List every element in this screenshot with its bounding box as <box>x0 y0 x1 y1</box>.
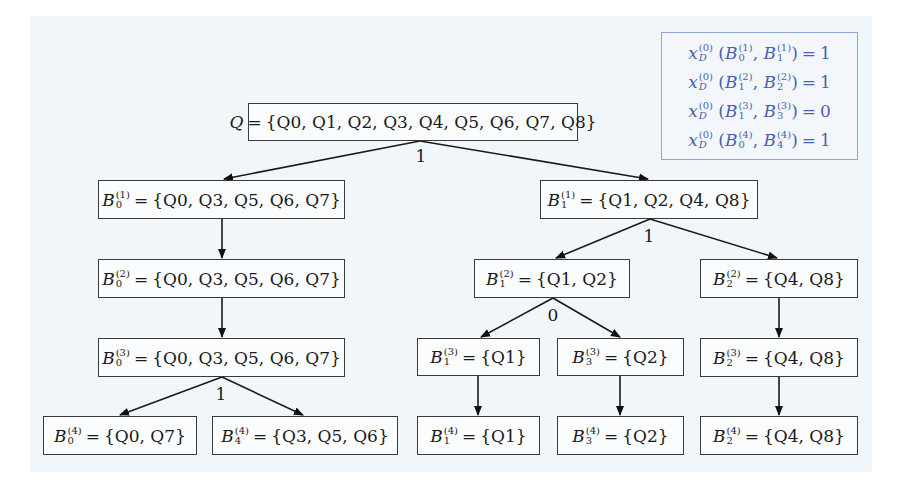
node-b2-3: B(3)2 = {Q4, Q8} <box>700 338 858 377</box>
equals-sign: = <box>745 426 759 446</box>
node-b0-1: B(1)0 = {Q0, Q3, Q5, Q6, Q7} <box>98 180 345 219</box>
node-set: {Q1, Q2, Q4, Q8} <box>597 190 750 210</box>
equals-sign: = <box>518 269 532 289</box>
legend-b-sup: (1) <box>777 43 791 53</box>
equals-sign: = <box>802 101 816 121</box>
equals-sign: = <box>134 190 148 210</box>
root-node-Q: Q = {Q0, Q1, Q2, Q3, Q4, Q5, Q6, Q7, Q8} <box>248 103 578 141</box>
node-base: B <box>102 348 115 368</box>
legend-row: x(0)D (B(1)0, B(1)1)=1 <box>688 38 831 67</box>
node-base: B <box>430 426 443 446</box>
root-lhs: Q <box>229 112 243 132</box>
node-b1-1: B(1)1 = {Q1, Q2, Q4, Q8} <box>540 180 758 219</box>
legend-value: 1 <box>820 43 831 63</box>
legend-fn-sup: (0) <box>699 101 713 111</box>
legend-a-sup: (1) <box>738 43 752 53</box>
node-b2-4: B(4)2 = {Q4, Q8} <box>700 416 858 455</box>
node-sup: (4) <box>235 426 249 436</box>
node-sub: 1 <box>444 357 458 367</box>
node-sup: (4) <box>68 426 82 436</box>
node-sub: 2 <box>727 436 741 446</box>
node-sup: (1) <box>116 190 130 200</box>
legend-fn: x <box>688 43 698 63</box>
equals-sign: = <box>253 426 267 446</box>
node-sub: 2 <box>727 279 741 289</box>
node-sub: 0 <box>116 200 130 210</box>
legend-fn: x <box>688 130 698 150</box>
node-set: {Q1} <box>480 426 526 446</box>
node-base: B <box>548 190 561 210</box>
equals-sign: = <box>134 348 148 368</box>
node-set: {Q0, Q3, Q5, Q6, Q7} <box>152 190 341 210</box>
node-b3-3: B(3)3 = {Q2} <box>557 338 684 376</box>
legend-a-sub: 0 <box>738 140 752 150</box>
equals-sign: = <box>802 130 816 150</box>
node-base: B <box>713 348 726 368</box>
node-sup: (3) <box>116 348 130 358</box>
edge-label-b1-2: 0 <box>548 305 559 325</box>
node-set: {Q0, Q3, Q5, Q6, Q7} <box>152 348 341 368</box>
legend-b-sup: (4) <box>777 130 791 140</box>
legend-fn-sub: D <box>699 140 713 150</box>
node-set: {Q4, Q8} <box>763 426 845 446</box>
xd-values-legend: x(0)D (B(1)0, B(1)1)=1 x(0)D (B(2)1, B(2… <box>661 32 858 160</box>
node-sup: (3) <box>727 348 741 358</box>
node-base: B <box>102 190 115 210</box>
legend-fn: x <box>688 72 698 92</box>
legend-b-sub: 4 <box>777 140 791 150</box>
legend-row: x(0)D (B(4)0, B(4)4)=1 <box>688 125 831 154</box>
equals-sign: = <box>604 426 618 446</box>
legend-fn-sub: D <box>699 53 713 63</box>
equals-sign: = <box>802 43 816 63</box>
equals-sign: = <box>745 348 759 368</box>
edge-root-b1_1 <box>420 141 648 179</box>
node-sup: (1) <box>561 190 575 200</box>
node-set: {Q2} <box>622 426 668 446</box>
legend-fn-sup: (0) <box>699 43 713 53</box>
legend-b-sub: 3 <box>777 111 791 121</box>
node-sub: 1 <box>444 436 458 446</box>
node-base: B <box>54 426 67 446</box>
equals-sign: = <box>802 72 816 92</box>
equals-sign: = <box>745 269 759 289</box>
legend-fn-sub: D <box>699 82 713 92</box>
node-base: B <box>572 347 585 367</box>
edge-label-b1-1: 1 <box>644 226 655 246</box>
legend-b-sup: (3) <box>777 101 791 111</box>
node-set: {Q3, Q5, Q6} <box>271 426 389 446</box>
node-sup: (4) <box>586 426 600 436</box>
equals-sign: = <box>134 269 148 289</box>
node-b0-4: B(4)0 = {Q0, Q7} <box>43 416 197 455</box>
node-set: {Q0, Q7} <box>104 426 186 446</box>
node-b1-4: B(4)1 = {Q1} <box>417 416 540 455</box>
node-sup: (2) <box>500 269 514 279</box>
node-base: B <box>221 426 234 446</box>
node-sub: 3 <box>586 436 600 446</box>
legend-a-sub: 1 <box>738 82 752 92</box>
node-sup: (4) <box>727 426 741 436</box>
legend-fn-sup: (0) <box>699 72 713 82</box>
node-set: {Q1, Q2} <box>536 269 618 289</box>
legend-fn: x <box>688 101 698 121</box>
node-b0-2: B(2)0 = {Q0, Q3, Q5, Q6, Q7} <box>98 259 345 298</box>
equals-sign: = <box>604 347 618 367</box>
node-sub: 0 <box>116 358 130 368</box>
node-set: {Q0, Q3, Q5, Q6, Q7} <box>152 269 341 289</box>
legend-a-sup: (4) <box>738 130 752 140</box>
node-set: {Q4, Q8} <box>763 348 845 368</box>
node-set: {Q1} <box>480 347 526 367</box>
node-sup: (2) <box>116 269 130 279</box>
node-base: B <box>430 347 443 367</box>
legend-a-sup: (2) <box>738 72 752 82</box>
node-base: B <box>572 426 585 446</box>
equals-sign: = <box>462 426 476 446</box>
node-b1-2: B(2)1 = {Q1, Q2} <box>474 259 630 298</box>
equals-sign: = <box>579 190 593 210</box>
node-base: B <box>713 426 726 446</box>
node-b1-3: B(3)1 = {Q1} <box>417 338 540 376</box>
legend-a-sub: 0 <box>738 53 752 63</box>
node-sub: 1 <box>561 200 575 210</box>
legend-value: 1 <box>820 72 831 92</box>
node-sub: 2 <box>727 358 741 368</box>
edge-label-root: 1 <box>416 146 427 166</box>
